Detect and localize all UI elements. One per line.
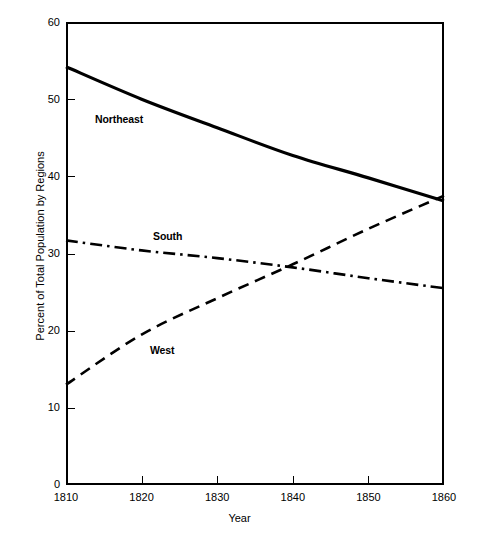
x-tick-label: 1850: [345, 491, 391, 503]
y-tick-label: 50: [34, 94, 60, 105]
x-tick-label: 1810: [43, 491, 89, 503]
x-tick-label: 1830: [194, 491, 240, 503]
x-tick-label: 1820: [119, 491, 165, 503]
series-label-northeast: Northeast: [95, 113, 143, 125]
y-tick-label: 0: [34, 479, 60, 490]
y-tick-label: 60: [34, 17, 60, 28]
x-tick-label: 1840: [270, 491, 316, 503]
series-line-west: [66, 196, 444, 385]
x-tick-label: 1860: [421, 491, 467, 503]
y-tick-label: 10: [34, 402, 60, 413]
chart-page: 60 50 40 30 20 10 0 1810 1820 1830 1840 …: [0, 0, 479, 535]
series-line-northeast: [66, 67, 444, 201]
y-axis-title: Percent of Total Population by Regions: [34, 106, 46, 386]
x-axis-tick-labels: 1810 1820 1830 1840 1850 1860: [0, 491, 479, 507]
series-label-west: West: [150, 344, 175, 356]
chart-plot: [66, 22, 444, 485]
x-axis-title: Year: [0, 512, 479, 524]
series-label-south: South: [153, 230, 182, 242]
